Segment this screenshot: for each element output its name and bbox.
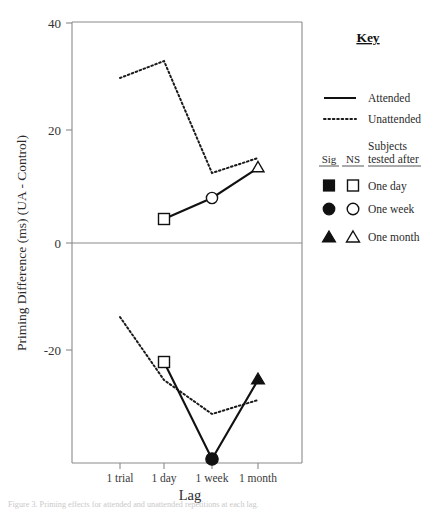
x-tick-label-1-month: 1 month: [239, 472, 277, 484]
key-title: Key: [356, 30, 379, 45]
key-marker-filled-triangle: [323, 231, 336, 242]
y-tick-label-20: 20: [48, 123, 61, 138]
y-axis-title: Priming Difference (ms) (UA - Control): [14, 135, 29, 351]
marker-open-square-one-day-lower: [159, 357, 170, 368]
y-tick-label-0: 0: [55, 236, 62, 251]
key-marker-open-triangle: [347, 231, 360, 242]
x-tick-label-1-day: 1 day: [151, 472, 176, 485]
upper-unattended-line: [120, 61, 258, 173]
lower-attended-line: [164, 362, 258, 459]
marker-open-triangle-one-month-upper: [252, 162, 264, 172]
lower-unattended-line: [120, 317, 258, 414]
figure-caption: Figure 3. Priming effects for attended a…: [8, 500, 428, 510]
key-marker-open-circle: [347, 203, 359, 215]
key-subjects-header-line1: Subjects: [368, 140, 407, 153]
x-axis-tick-labels: 1 trial 1 day 1 week 1 month: [106, 472, 277, 485]
key-column-header-ns: NS: [346, 153, 360, 165]
key-label-one-month: One month: [368, 231, 420, 243]
priming-difference-chart: 40 20 0 -20 1 trial 1 day 1 week 1 month…: [0, 0, 436, 514]
key-marker-filled-square: [324, 180, 335, 191]
key-legend: Key Attended Unattended Subjects tested …: [319, 30, 421, 243]
y-axis-ticks: [66, 23, 72, 350]
key-label-attended: Attended: [368, 92, 410, 104]
marker-open-square-one-day-upper: [159, 214, 170, 225]
marker-open-circle-one-week-upper: [206, 192, 217, 203]
key-marker-open-square: [348, 180, 359, 191]
marker-filled-circle-one-week-lower: [206, 453, 218, 465]
y-tick-label-neg20: -20: [44, 343, 61, 358]
key-label-one-day: One day: [368, 180, 407, 193]
key-marker-filled-circle: [323, 203, 335, 215]
y-tick-label-40: 40: [48, 16, 61, 31]
key-label-one-week: One week: [368, 203, 415, 215]
lower-attended-markers: [159, 357, 265, 466]
x-tick-label-1-week: 1 week: [196, 472, 229, 484]
x-axis-ticks: [120, 463, 258, 469]
key-subjects-header-line2: tested after: [368, 153, 419, 165]
y-axis-tick-labels: 40 20 0 -20: [44, 16, 61, 358]
key-label-unattended: Unattended: [368, 113, 421, 125]
x-tick-label-1-trial: 1 trial: [106, 472, 133, 484]
key-column-header-sig: Sig: [322, 153, 337, 165]
marker-filled-triangle-one-month-lower: [252, 373, 265, 384]
figure-container: 40 20 0 -20 1 trial 1 day 1 week 1 month…: [0, 0, 436, 514]
